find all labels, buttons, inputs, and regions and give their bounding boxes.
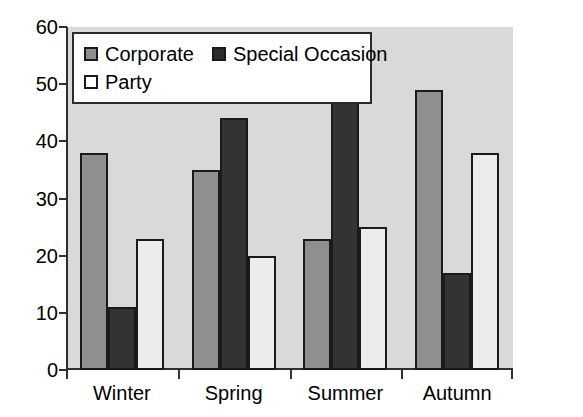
x-axis-tick-label-winter: Winter xyxy=(66,381,178,405)
legend-label: Corporate xyxy=(105,43,194,65)
legend-swatch-icon xyxy=(212,47,226,61)
y-axis-tick-mark xyxy=(59,312,67,314)
bar[interactable] xyxy=(331,101,359,370)
bar[interactable] xyxy=(80,153,108,370)
y-axis-tick-label: 40 xyxy=(0,131,58,151)
y-axis-tick-label: 20 xyxy=(0,246,58,266)
y-axis-tick-label: 0 xyxy=(0,360,58,380)
legend-entry-party[interactable]: Party xyxy=(84,71,152,93)
chart-legend: Corporate Special Occasion Party xyxy=(72,32,372,104)
bar[interactable] xyxy=(303,239,331,370)
bar[interactable] xyxy=(108,307,136,370)
x-axis-tick-label-autumn: Autumn xyxy=(401,381,513,405)
x-axis-tick-mark xyxy=(178,370,180,379)
bar[interactable] xyxy=(443,273,471,370)
legend-swatch-icon xyxy=(84,75,98,89)
legend-swatch-icon xyxy=(84,47,98,61)
bar[interactable] xyxy=(471,153,499,370)
legend-entry-special-occasion[interactable]: Special Occasion xyxy=(212,43,388,65)
x-axis-tick-label-spring: Spring xyxy=(178,381,290,405)
y-axis-tick-mark xyxy=(59,26,67,28)
legend-label: Special Occasion xyxy=(233,43,388,65)
bar-chart: 0102030405060 WinterSpringSummerAutumn C… xyxy=(0,0,583,417)
legend-entry-corporate[interactable]: Corporate xyxy=(84,43,194,65)
bar[interactable] xyxy=(192,170,220,370)
y-axis-tick-label: 50 xyxy=(0,74,58,94)
legend-row: Corporate Special Occasion xyxy=(84,40,360,68)
x-axis-tick-mark xyxy=(511,370,513,379)
legend-label: Party xyxy=(105,71,152,93)
y-axis-tick-mark xyxy=(59,255,67,257)
legend-row: Party xyxy=(84,68,360,96)
y-axis-tick-mark xyxy=(59,83,67,85)
y-axis-tick-label: 10 xyxy=(0,303,58,323)
y-axis-tick-mark xyxy=(59,140,67,142)
bar[interactable] xyxy=(220,118,248,370)
y-axis-tick-label: 60 xyxy=(0,17,58,37)
x-axis-tick-mark xyxy=(66,370,68,379)
bar[interactable] xyxy=(136,239,164,370)
bar[interactable] xyxy=(415,90,443,370)
y-axis: 0102030405060 xyxy=(0,0,58,417)
bar[interactable] xyxy=(359,227,387,370)
y-axis-tick-mark xyxy=(59,198,67,200)
x-axis-tick-mark xyxy=(290,370,292,379)
x-axis-tick-mark xyxy=(401,370,403,379)
x-axis-tick-label-summer: Summer xyxy=(290,381,402,405)
y-axis-tick-label: 30 xyxy=(0,189,58,209)
bar[interactable] xyxy=(248,256,276,370)
